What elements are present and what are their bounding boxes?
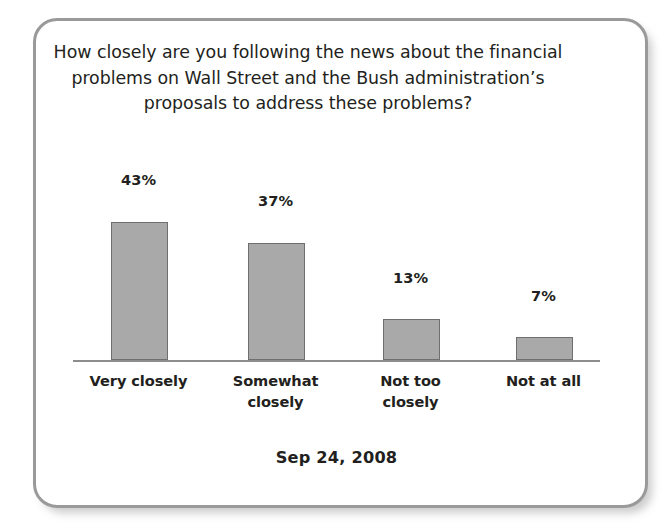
chart-title-line-1: How closely are you following the news a… — [46, 40, 570, 66]
x-tick-label-somewhat-closely: Somewhat closely — [210, 370, 341, 412]
chart-title: How closely are you following the news a… — [46, 40, 570, 117]
x-tick-line: Very closely — [73, 370, 204, 391]
bar-not-at-all — [516, 337, 573, 360]
x-tick-line: Not too — [345, 370, 476, 391]
x-tick-label-not-at-all: Not at all — [478, 370, 609, 391]
x-tick-line: Somewhat — [210, 370, 341, 391]
x-axis-tick-labels: Very closely Somewhat closely Not too cl… — [73, 370, 600, 430]
chart-title-line-3: proposals to address these problems? — [46, 91, 570, 117]
plot-area: 43% 37% 13% 7% — [40, 165, 600, 365]
bar-value-label: 7% — [478, 287, 609, 304]
x-tick-line: closely — [210, 391, 341, 412]
bar-slot-not-too-closely: 13% — [345, 165, 476, 360]
x-tick-label-not-too-closely: Not too closely — [345, 370, 476, 412]
chart-screenshot: How closely are you following the news a… — [0, 0, 663, 528]
bar-group: 43% 37% 13% 7% — [73, 165, 600, 360]
x-tick-label-very-closely: Very closely — [73, 370, 204, 391]
bar-not-too-closely — [383, 319, 440, 360]
bar-value-label: 43% — [73, 171, 204, 188]
chart-title-line-2: problems on Wall Street and the Bush adm… — [46, 66, 570, 92]
bar-slot-not-at-all: 7% — [478, 165, 609, 360]
bar-slot-very-closely: 43% — [73, 165, 204, 360]
bar-slot-somewhat-closely: 37% — [210, 165, 341, 360]
x-axis-line — [73, 360, 600, 362]
x-tick-line: Not at all — [478, 370, 609, 391]
chart-caption-date: Sep 24, 2008 — [73, 448, 600, 467]
bar-value-label: 37% — [210, 192, 341, 209]
x-tick-line: closely — [345, 391, 476, 412]
bar-value-label: 13% — [345, 269, 476, 286]
bar-somewhat-closely — [248, 243, 305, 360]
bar-very-closely — [111, 222, 168, 360]
